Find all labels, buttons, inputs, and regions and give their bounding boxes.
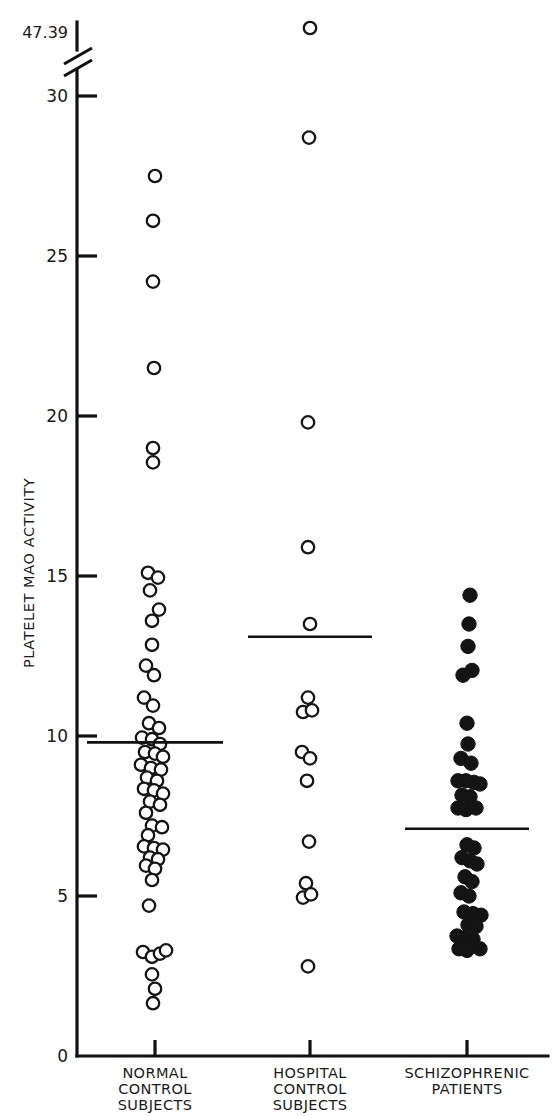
data-point: [302, 691, 314, 703]
group-label-line2: PATIENTS: [431, 1081, 502, 1097]
data-point: [302, 541, 314, 553]
data-point: [469, 919, 483, 933]
data-point: [152, 571, 164, 583]
y-tick-label-30: 30: [46, 86, 68, 106]
data-point: [460, 716, 474, 730]
data-point: [147, 997, 159, 1009]
y-tick-label-15: 15: [46, 566, 68, 586]
y-tick-label-10: 10: [46, 726, 68, 746]
data-point: [462, 617, 476, 631]
data-point: [461, 737, 475, 751]
data-point: [153, 722, 165, 734]
series-normal-control-subjects: [135, 170, 172, 1010]
data-point: [144, 584, 156, 596]
data-point: [160, 944, 172, 956]
data-point: [153, 603, 165, 615]
data-point: [462, 889, 476, 903]
data-point: [464, 756, 478, 770]
data-point: [147, 275, 159, 287]
data-point: [304, 618, 316, 630]
data-point: [154, 799, 166, 811]
data-point: [146, 874, 158, 886]
group-label-line3: SUBJECTS: [118, 1097, 193, 1113]
data-point: [302, 416, 314, 428]
group-label-line1: HOSPITAL: [273, 1065, 346, 1081]
data-point: [303, 835, 315, 847]
data-point: [149, 170, 161, 182]
y-tick-label-20: 20: [46, 406, 68, 426]
data-point: [148, 669, 160, 681]
data-point: [460, 943, 474, 957]
x-group-label-hospital: HOSPITAL CONTROL SUBJECTS: [273, 1065, 348, 1113]
data-point: [146, 615, 158, 627]
y-tick-label-5: 5: [57, 886, 68, 906]
y-tick-marks: [77, 96, 97, 896]
data-point: [143, 899, 155, 911]
data-point: [467, 841, 481, 855]
series-schizophrenic-patients: [450, 588, 488, 958]
data-point: [305, 888, 317, 900]
data-point: [147, 442, 159, 454]
data-point: [140, 807, 152, 819]
x-group-label-schizophrenic: SCHIZOPHRENIC PATIENTS: [404, 1065, 529, 1097]
data-point: [303, 131, 315, 143]
data-point: [147, 456, 159, 468]
chart-figure: 30 25 20 15 10 5 0 47.39 PLATELET MAO AC…: [0, 0, 553, 1116]
data-point: [149, 983, 161, 995]
group-label-line2: CONTROL: [118, 1081, 192, 1097]
data-point: [304, 752, 316, 764]
data-point: [465, 663, 479, 677]
x-group-label-normal: NORMAL CONTROL SUBJECTS: [118, 1065, 193, 1113]
group-label-line1: SCHIZOPHRENIC: [404, 1065, 529, 1081]
data-point: [473, 777, 487, 791]
group-label-line3: SUBJECTS: [273, 1097, 348, 1113]
data-point: [147, 215, 159, 227]
data-point: [306, 704, 318, 716]
y-axis-title: PLATELET MAO ACTIVITY: [21, 478, 37, 668]
series-hospital-control-subjects: [296, 22, 318, 973]
x-tick-marks: [155, 1040, 467, 1056]
y-axis-break-value: 47.39: [22, 23, 68, 42]
data-point: [461, 639, 475, 653]
data-point: [465, 874, 479, 888]
data-point: [148, 362, 160, 374]
data-point: [156, 821, 168, 833]
data-point: [302, 960, 314, 972]
data-point: [463, 588, 477, 602]
data-point: [147, 699, 159, 711]
y-tick-label-25: 25: [46, 246, 68, 266]
data-point: [473, 942, 487, 956]
y-tick-label-0: 0: [57, 1046, 68, 1066]
data-point: [469, 801, 483, 815]
data-point: [146, 968, 158, 980]
data-point: [146, 639, 158, 651]
data-point: [470, 857, 484, 871]
data-point: [301, 775, 313, 787]
group-label-line2: CONTROL: [273, 1081, 347, 1097]
group-label-line1: NORMAL: [122, 1065, 187, 1081]
data-point: [304, 22, 316, 34]
dot-plot-svg: 30 25 20 15 10 5 0 47.39 PLATELET MAO AC…: [0, 0, 553, 1116]
data-point: [157, 751, 169, 763]
